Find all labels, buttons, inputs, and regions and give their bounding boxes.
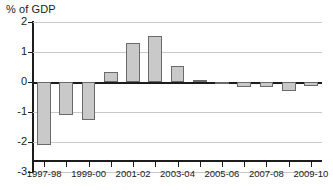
x-tick: [66, 162, 67, 167]
plot-area: [33, 22, 322, 172]
x-axis-label: 1999-00: [66, 169, 112, 179]
x-tick: [200, 162, 201, 167]
y-tick-neg1: [28, 112, 33, 113]
x-axis-label: 2007-08: [243, 169, 289, 179]
y-axis-label: 1: [3, 46, 27, 57]
bar: [237, 82, 251, 87]
x-axis-label: 2009-10: [288, 169, 333, 179]
y-axis-label: 0: [3, 76, 27, 87]
bar: [193, 80, 207, 82]
y-tick-2: [28, 22, 33, 23]
x-tick: [178, 162, 179, 167]
x-axis-label: 2005-06: [199, 169, 245, 179]
x-tick: [222, 162, 223, 167]
bar: [37, 82, 51, 145]
bar: [304, 82, 318, 86]
bar: [215, 82, 229, 84]
bar: [126, 43, 140, 82]
y-tick-0: [28, 82, 33, 83]
x-tick: [155, 162, 156, 167]
x-tick: [244, 162, 245, 167]
y-axis-label: -2: [3, 136, 27, 147]
y-tick-1: [28, 52, 33, 53]
bar: [260, 82, 274, 87]
x-tick: [133, 162, 134, 167]
bar: [148, 36, 162, 83]
x-tick: [89, 162, 90, 167]
zero-baseline: [33, 82, 322, 84]
x-tick: [111, 162, 112, 167]
y-axis-label: 2: [3, 16, 27, 27]
bar: [82, 82, 96, 120]
x-axis-label: 1997-98: [21, 169, 67, 179]
bar: [59, 82, 73, 115]
x-tick: [311, 162, 312, 167]
y-axis-labels: 210-1-2-3: [0, 0, 27, 190]
y-tick-neg2: [28, 142, 33, 143]
x-tick: [266, 162, 267, 167]
bar: [171, 66, 185, 83]
y-axis-label: -1: [3, 106, 27, 117]
bar: [104, 72, 118, 83]
bar: [282, 82, 296, 91]
x-tick: [44, 162, 45, 167]
x-axis-label: 2003-04: [155, 169, 201, 179]
gridline-2: [33, 22, 322, 23]
x-tick: [289, 162, 290, 167]
gridline-neg2: [33, 142, 322, 143]
x-axis-label: 2001-02: [110, 169, 156, 179]
gridline-neg1: [33, 112, 322, 113]
gridline-1: [33, 52, 322, 53]
